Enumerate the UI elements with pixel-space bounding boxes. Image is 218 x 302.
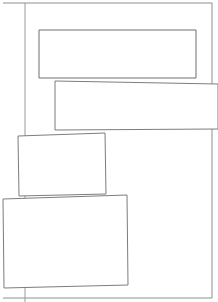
- panel-middle-left[interactable]: [18, 133, 106, 196]
- panel-upper-right[interactable]: [55, 81, 218, 130]
- wireframe-canvas: [0, 0, 218, 302]
- panel-top[interactable]: [39, 30, 196, 78]
- panel-bottom[interactable]: [3, 195, 128, 288]
- wireframe-drawing: [0, 0, 218, 302]
